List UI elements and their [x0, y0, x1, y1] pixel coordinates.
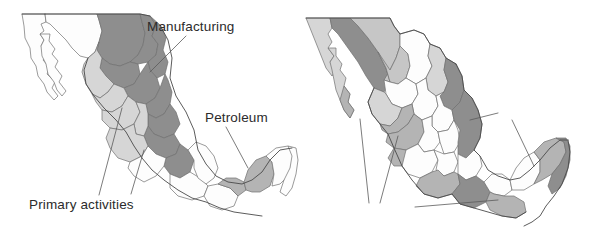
mexico-map-left: Manufacturing Petroleum Primary activiti…	[0, 0, 302, 237]
mexico-map-right: Diversified Services	[302, 0, 604, 237]
map-right-svg	[302, 0, 604, 237]
leader-petroleum	[226, 127, 248, 168]
leader-services-1	[360, 119, 369, 203]
region-chiapas-r	[486, 192, 526, 218]
label-petroleum: Petroleum	[205, 111, 268, 125]
leader-services-2	[380, 136, 398, 203]
economic-specialization-figure: Manufacturing Petroleum Primary activiti…	[0, 0, 604, 237]
region-campeche-r	[510, 152, 540, 190]
label-primary-activities: Primary activities	[29, 198, 134, 212]
label-manufacturing: Manufacturing	[147, 20, 235, 34]
leader-services-3	[415, 200, 498, 207]
